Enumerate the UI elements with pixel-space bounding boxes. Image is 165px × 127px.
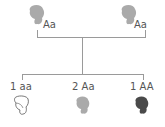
parent-connector-horizontal (37, 37, 146, 38)
offspring-AA-label: 1 AA (130, 82, 154, 92)
offspring-right-drop (143, 74, 144, 80)
offspring-left-drop (22, 74, 23, 80)
parent-right-genotype: Aa (134, 20, 147, 30)
parent-left-genotype: Aa (43, 20, 56, 30)
offspring-AA-dark-blob-icon (134, 95, 150, 116)
offspring-aa-outline-blob-icon (13, 94, 31, 116)
parent-connector-right-vertical (145, 30, 146, 37)
offspring-Aa-gray-blob-icon (75, 95, 91, 116)
trunk-vertical-line (82, 37, 83, 74)
offspring-connector-horizontal (22, 74, 144, 75)
offspring-Aa-label: 2 Aa (72, 82, 95, 92)
parent-connector-left-vertical (37, 30, 38, 37)
offspring-aa-label: 1 aa (10, 82, 32, 92)
